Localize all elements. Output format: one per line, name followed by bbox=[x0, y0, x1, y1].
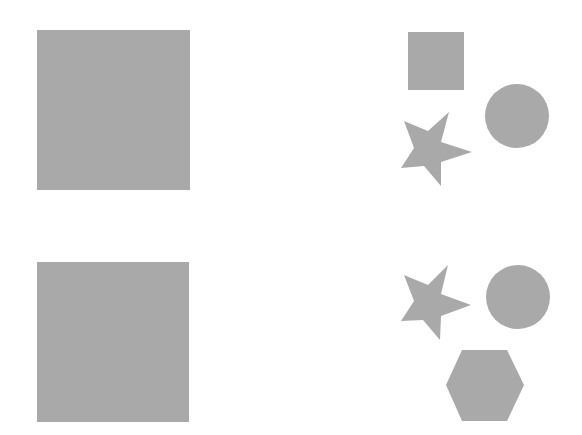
hexagon bbox=[0, 0, 582, 435]
